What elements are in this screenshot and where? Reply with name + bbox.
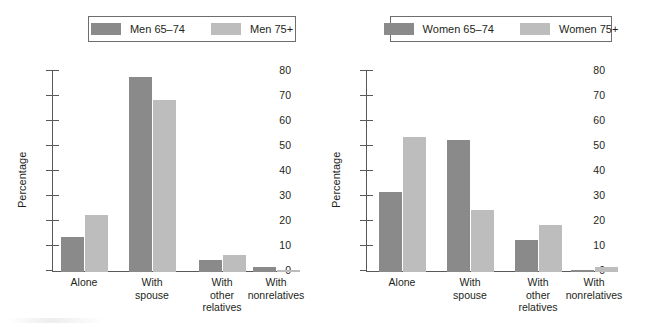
bar-group-container-men	[53, 72, 300, 272]
y-tick-20	[46, 220, 52, 221]
legend-swatch-icon-women-65-74	[384, 23, 414, 35]
bar-women-75--4[interactable]	[595, 267, 618, 272]
page-artifact	[8, 318, 104, 323]
legend-women: Women 65–74 Women 75+	[390, 16, 612, 42]
y-tick-0	[46, 270, 52, 271]
bar-group-3	[515, 72, 562, 272]
legend-label-men-65-74: Men 65–74	[130, 23, 185, 35]
plot-area-men: 01020304050607080 AloneWith spouseWith o…	[52, 70, 300, 273]
y-tick-10	[360, 245, 366, 246]
bar-men-65-74-3[interactable]	[199, 260, 222, 273]
legend-label-women-65-74: Women 65–74	[423, 23, 494, 35]
bar-men-65-74-2[interactable]	[129, 77, 152, 272]
y-tick-60	[46, 120, 52, 121]
bar-group-container-women	[367, 72, 614, 272]
legend-swatch-icon-men-75-plus	[211, 23, 241, 35]
bar-group-4	[253, 72, 300, 272]
x-category-label-4: With nonrelatives	[554, 276, 634, 301]
y-tick-10	[46, 245, 52, 246]
bar-group-1	[379, 72, 426, 272]
y-tick-40	[46, 170, 52, 171]
legend-label-women-75-plus: Women 75+	[559, 23, 618, 35]
y-tick-inner-80	[367, 70, 373, 71]
y-tick-30	[46, 195, 52, 196]
bar-group-2	[447, 72, 494, 272]
bar-men-75--1[interactable]	[85, 215, 108, 273]
y-axis-label-women: Percentage	[330, 152, 342, 208]
bar-men-75--2[interactable]	[153, 100, 176, 273]
x-category-label-2: With spouse	[112, 276, 192, 301]
bar-men-65-74-4[interactable]	[253, 267, 276, 272]
bar-women-65-74-3[interactable]	[515, 240, 538, 273]
bar-group-3	[199, 72, 246, 272]
bar-women-75--2[interactable]	[471, 210, 494, 273]
bar-men-75--3[interactable]	[223, 255, 246, 273]
y-tick-30	[360, 195, 366, 196]
chart-panel-women: Women 65–74 Women 75+ Percentage 0102030…	[324, 0, 647, 327]
y-tick-80	[360, 70, 366, 71]
y-tick-40	[360, 170, 366, 171]
y-tick-20	[360, 220, 366, 221]
y-tick-70	[46, 95, 52, 96]
figure-two-panel-bar-chart: Men 65–74 Men 75+ Percentage 01020304050…	[0, 0, 647, 327]
legend-entry-men-75-plus[interactable]: Men 75+	[211, 23, 293, 35]
bar-women-75--3[interactable]	[539, 225, 562, 273]
legend-swatch-icon-women-75-plus	[520, 23, 550, 35]
plot-area-women: 01020304050607080 AloneWith spouseWith o…	[366, 70, 614, 273]
legend-men: Men 65–74 Men 75+	[88, 16, 296, 42]
y-tick-70	[360, 95, 366, 96]
y-tick-80	[46, 70, 52, 71]
bar-men-75--4[interactable]	[277, 270, 300, 273]
bar-women-65-74-1[interactable]	[379, 192, 402, 272]
legend-entry-women-75-plus[interactable]: Women 75+	[520, 23, 618, 35]
bar-women-65-74-4[interactable]	[571, 270, 594, 273]
bar-men-65-74-1[interactable]	[61, 237, 84, 272]
bar-women-65-74-2[interactable]	[447, 140, 470, 273]
bar-women-75--1[interactable]	[403, 137, 426, 272]
y-tick-inner-80	[53, 70, 59, 71]
y-tick-50	[46, 145, 52, 146]
y-tick-60	[360, 120, 366, 121]
y-axis-label-men: Percentage	[16, 152, 28, 208]
legend-label-men-75-plus: Men 75+	[250, 23, 293, 35]
bar-group-4	[571, 72, 618, 272]
legend-swatch-icon-men-65-74	[91, 23, 121, 35]
y-tick-50	[360, 145, 366, 146]
legend-entry-women-65-74[interactable]: Women 65–74	[384, 23, 494, 35]
legend-entry-men-65-74[interactable]: Men 65–74	[91, 23, 185, 35]
x-category-label-4: With nonrelatives	[236, 276, 316, 301]
bar-group-1	[61, 72, 108, 272]
chart-panel-men: Men 65–74 Men 75+ Percentage 01020304050…	[0, 0, 323, 327]
bar-group-2	[129, 72, 176, 272]
y-tick-0	[360, 270, 366, 271]
